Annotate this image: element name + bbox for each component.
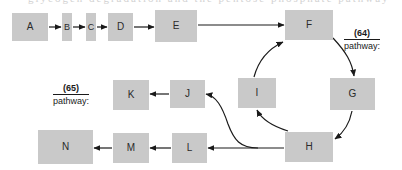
pathway-diagram: glycogen degradation and the pentose pho… (0, 0, 402, 170)
node-c-label: C (88, 23, 95, 32)
node-j[interactable]: J (170, 80, 205, 108)
edge-h-i (257, 110, 288, 131)
node-n-label: N (62, 142, 69, 152)
edge-i-f (254, 42, 283, 77)
node-k-label: K (128, 90, 135, 100)
node-h-label: H (305, 142, 312, 152)
edge-g-h (335, 111, 352, 139)
node-f[interactable]: F (285, 10, 333, 40)
node-a[interactable]: A (12, 13, 48, 41)
pathway-64-number: (64) (344, 28, 380, 40)
node-h[interactable]: H (285, 132, 333, 162)
node-b-label: B (64, 23, 70, 32)
node-e[interactable]: E (155, 10, 197, 42)
node-d-label: D (117, 22, 124, 32)
node-n[interactable]: N (38, 130, 93, 164)
node-a-label: A (27, 22, 34, 32)
node-i-label: I (256, 88, 259, 98)
node-b[interactable]: B (62, 13, 72, 41)
node-i[interactable]: I (238, 78, 276, 108)
pathway-64-word: pathway: (344, 40, 380, 51)
node-d[interactable]: D (108, 13, 133, 41)
node-m-label: M (127, 143, 135, 153)
node-l[interactable]: L (172, 133, 207, 163)
node-f-label: F (306, 20, 312, 30)
node-m[interactable]: M (113, 133, 149, 163)
node-j-label: J (185, 89, 190, 99)
pathway-label-65: (65) pathway: (53, 83, 89, 107)
node-k[interactable]: K (113, 80, 149, 110)
node-c[interactable]: C (86, 13, 96, 41)
node-g[interactable]: G (330, 78, 375, 110)
node-e-label: E (173, 21, 180, 31)
node-l-label: L (187, 143, 193, 153)
node-g-label: G (349, 89, 357, 99)
pathway-65-number: (65) (53, 83, 89, 95)
pathway-label-64: (64) pathway: (344, 28, 380, 52)
pathway-65-word: pathway: (53, 95, 89, 106)
